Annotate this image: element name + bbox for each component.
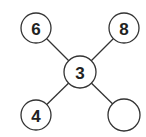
node-label-top-right: 8 — [119, 20, 128, 39]
node-label-top-left: 6 — [31, 20, 40, 39]
node-label-bottom-left: 4 — [31, 107, 41, 126]
number-diagram: 6 8 3 4 — [0, 0, 146, 137]
node-bottom-right[interactable] — [108, 99, 140, 131]
node-label-center: 3 — [75, 64, 84, 83]
